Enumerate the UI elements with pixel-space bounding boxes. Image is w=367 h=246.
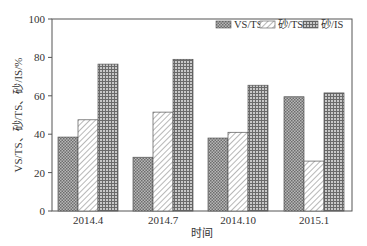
legend-label-sand-is: 砂/IS <box>321 18 343 30</box>
bars <box>58 59 344 211</box>
legend-swatch-vs-ts <box>216 21 231 28</box>
bar-vs-ts-2014.7 <box>133 157 153 211</box>
bar-sand-is-2014.4 <box>98 64 118 211</box>
bar-sand-ts-2014.4 <box>78 120 98 211</box>
bar-sand-is-2014.7 <box>173 59 193 211</box>
legend-label-vs-ts: VS/TS <box>234 19 263 30</box>
x-axis: 2014.42014.72014.102015.1 <box>73 214 329 226</box>
y-tick-label: 60 <box>34 90 46 102</box>
x-tick-label: 2014.7 <box>148 214 179 226</box>
y-axis: 020406080100 <box>29 13 53 217</box>
x-tick-label: 2015.1 <box>299 214 329 226</box>
legend-swatch-sand-is <box>303 21 318 28</box>
bar-vs-ts-2014.10 <box>208 138 228 211</box>
x-tick-label: 2014.10 <box>220 214 256 226</box>
bar-sand-ts-2015.1 <box>304 161 324 211</box>
bar-chart: 020406080100 2014.42014.72014.102015.1 时… <box>0 0 367 246</box>
y-tick-label: 100 <box>29 13 46 25</box>
y-tick-label: 20 <box>34 167 46 179</box>
y-tick-label: 0 <box>40 205 46 217</box>
y-axis-title: VS/TS、砂/TS、砂/IS/% <box>12 58 24 173</box>
bar-vs-ts-2014.4 <box>58 137 78 211</box>
bar-vs-ts-2015.1 <box>284 97 304 211</box>
legend-swatch-sand-ts <box>260 21 275 28</box>
bar-sand-ts-2014.10 <box>228 132 248 211</box>
bar-sand-ts-2014.7 <box>153 112 173 211</box>
legend: VS/TS 砂/TS 砂/IS <box>216 18 343 30</box>
legend-label-sand-ts: 砂/TS <box>278 18 303 30</box>
x-axis-title: 时间 <box>191 227 213 239</box>
bar-sand-is-2014.10 <box>248 85 268 211</box>
x-tick-label: 2014.4 <box>73 214 104 226</box>
bar-sand-is-2015.1 <box>324 93 344 211</box>
y-tick-label: 80 <box>34 51 46 63</box>
y-tick-label: 40 <box>34 128 46 140</box>
